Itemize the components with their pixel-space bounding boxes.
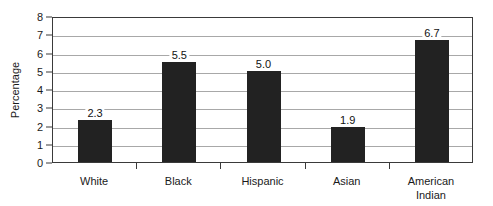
bar[interactable] [247, 71, 281, 162]
y-tick-label: 0 [37, 157, 43, 169]
x-category-label: Hispanic [241, 174, 283, 188]
y-tick-label: 7 [37, 29, 43, 41]
y-tick-label: 1 [37, 139, 43, 151]
bar[interactable] [78, 120, 112, 162]
gridline [53, 55, 472, 56]
y-tick-label: 4 [37, 84, 43, 96]
y-tick-label: 5 [37, 66, 43, 78]
bar[interactable] [331, 127, 365, 162]
bar-value-label: 1.9 [338, 114, 357, 127]
bar-value-label: 6.7 [422, 27, 441, 40]
bar-chart: Percentage 012345678 2.35.55.01.96.7 Whi… [0, 0, 493, 206]
x-tick-mark [389, 163, 390, 169]
y-tick-label: 6 [37, 48, 43, 60]
x-category-label: White [80, 174, 108, 188]
x-category-label: Black [165, 174, 192, 188]
x-category-label: American Indian [408, 174, 454, 202]
y-tick-label: 8 [37, 11, 43, 23]
plot-area: 2.35.55.01.96.7 [52, 17, 473, 163]
x-tick-mark [305, 163, 306, 169]
bar[interactable] [415, 40, 449, 162]
y-tick-label: 2 [37, 121, 43, 133]
y-tick-label: 3 [37, 102, 43, 114]
gridline [53, 36, 472, 37]
bar-value-label: 5.0 [254, 58, 273, 71]
bar[interactable] [162, 62, 196, 162]
x-category-label: Asian [333, 174, 361, 188]
x-tick-mark [136, 163, 137, 169]
bar-value-label: 5.5 [170, 49, 189, 62]
bar-value-label: 2.3 [85, 107, 104, 120]
y-axis: 012345678 [0, 0, 52, 206]
x-tick-mark [220, 163, 221, 169]
